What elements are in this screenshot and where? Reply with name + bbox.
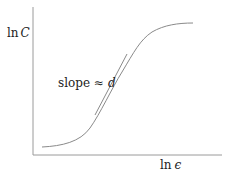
x-axis-label-fn: ln [160, 158, 172, 172]
slope-annotation-text: slope ≈ [58, 76, 104, 90]
x-axis-label: lnϵ [160, 159, 181, 171]
scaling-diagram: lnC slope ≈d lnϵ [0, 0, 235, 177]
y-axis-label-fn: ln [7, 26, 19, 40]
y-axis-label: lnC [7, 27, 30, 39]
diagram-canvas [0, 0, 235, 177]
slope-annotation-var: d [108, 76, 116, 90]
slope-annotation: slope ≈d [58, 77, 116, 89]
x-axis-label-var: ϵ [175, 158, 182, 172]
y-axis-label-var: C [21, 26, 30, 40]
